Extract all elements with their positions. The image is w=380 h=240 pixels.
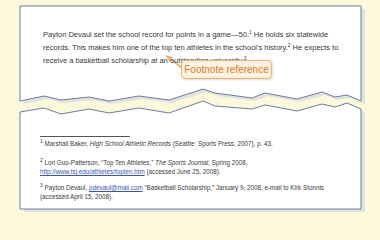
footnote-date: , Spring 2008, bbox=[208, 159, 247, 166]
footnote-3: 3 Payton Devaul, pdevaul@mail.com “Baske… bbox=[40, 183, 340, 201]
footnote-details: (accessed June 25, 2008). bbox=[145, 168, 221, 175]
footnote-reference-callout: Footnote reference bbox=[181, 60, 272, 79]
footnote-number: 3 bbox=[40, 182, 43, 188]
footnote-2: 2 Lori Guo-Patterson, “Top Ten Athletes,… bbox=[40, 158, 340, 176]
footnote-title: High School Athletic Records bbox=[90, 140, 171, 147]
footnote-number: 1 bbox=[40, 138, 43, 144]
footnote-separator bbox=[40, 136, 130, 137]
footnote-title: The Sports Journal bbox=[155, 159, 208, 166]
footnote-email-link[interactable]: pdevaul@mail.com bbox=[89, 184, 143, 191]
footnote-details: (Seattle: Sports Press, 2007), p. 43. bbox=[171, 140, 273, 147]
footnote-author: Marshall Baker, bbox=[45, 140, 90, 147]
footnote-number: 2 bbox=[40, 157, 43, 163]
footnote-url-link[interactable]: http://www.tsj.edu/athletes/topten.htm bbox=[40, 168, 145, 175]
footnote-author: Lori Guo-Patterson, “Top Ten Athletes,” bbox=[45, 159, 156, 166]
sentence-1: Payton Devaul set the school record for … bbox=[43, 30, 249, 39]
footnote-1: 1 Marshall Baker, High School Athletic R… bbox=[40, 139, 340, 148]
footnote-author: Payton Devaul, bbox=[45, 184, 89, 191]
